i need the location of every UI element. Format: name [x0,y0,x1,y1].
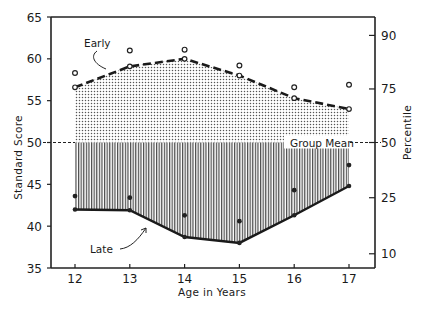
x-tick-label: 14 [177,272,192,286]
y-tick-label: 50 [27,136,42,150]
late-filled-dot-marker [237,219,242,224]
early-mean-marker [237,73,242,78]
y2-axis-title: Percentile [401,105,413,160]
x-tick-label: 15 [232,272,247,286]
y-tick-label: 45 [27,178,42,192]
late-mean-marker [292,213,297,218]
early-late-maturity-chart: 354045505560659075502510121314151617 Age… [0,0,424,309]
early-open-circle-marker [347,82,352,87]
x-tick-label: 13 [122,272,137,286]
early-label-arrow [94,51,106,69]
late-mean-marker [73,207,78,212]
early-open-circle-marker [292,85,297,90]
early-open-circle-marker [237,63,242,68]
late-filled-dot-marker [182,213,187,218]
group-mean-label: Group Mean [290,137,354,149]
late-mean-marker [182,235,187,240]
y2-tick-label: 90 [381,29,396,43]
late-mean-marker [237,241,242,246]
early-open-circle-marker [182,47,187,52]
late-label: Late [90,243,113,255]
late-filled-dot-marker [73,194,78,199]
early-mean-marker [128,64,133,69]
early-open-circle-marker [73,71,78,76]
y-tick-label: 60 [27,52,42,66]
early-open-circle-marker [127,48,132,53]
y-tick-label: 55 [27,94,42,108]
y2-tick-label: 10 [381,247,396,261]
y-axis-title: Standard Score [12,115,24,200]
early-mean-marker [347,107,352,112]
late-label-arrow [120,228,146,249]
late-mean-marker [128,208,133,213]
x-tick-label: 17 [341,272,356,286]
early-mean-marker [182,57,187,62]
late-filled-dot-marker [347,163,352,168]
late-mean-marker [347,184,352,189]
y2-tick-label: 50 [381,136,396,150]
late-hatched-fill [75,143,349,243]
y2-tick-label: 75 [381,82,396,96]
x-tick-label: 16 [287,272,302,286]
early-mean-marker [292,96,297,101]
chart-container: 354045505560659075502510121314151617 Age… [0,0,424,309]
y-tick-label: 35 [27,262,42,276]
x-tick-label: 12 [67,272,82,286]
x-axis-title: Age in Years [178,286,246,298]
early-label: Early [84,37,111,49]
early-mean-marker [73,85,78,90]
y-tick-label: 40 [27,220,42,234]
y2-tick-label: 25 [381,191,396,205]
late-filled-dot-marker [292,188,297,193]
y-tick-label: 65 [27,11,42,25]
shaded-regions [75,59,349,243]
late-filled-dot-marker [127,195,132,200]
